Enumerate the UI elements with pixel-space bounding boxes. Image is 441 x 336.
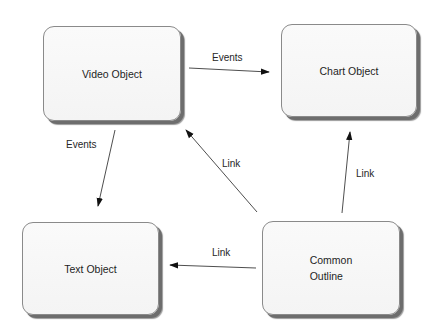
node-chart[interactable]: Chart Object — [281, 24, 417, 117]
arrow-outline-to-chart — [342, 132, 350, 213]
node-label: Common Outline — [310, 252, 353, 284]
diagram-canvas: Video ObjectChart ObjectText ObjectCommo… — [0, 0, 441, 336]
arrow-outline-to-video — [186, 130, 257, 212]
edge-label-video-to-text: Events — [66, 139, 97, 150]
edge-label-outline-to-text: Link — [212, 247, 230, 258]
arrow-outline-to-text — [170, 265, 256, 268]
arrow-video-to-text — [98, 130, 115, 206]
edge-label-video-to-chart: Events — [212, 52, 243, 63]
edge-label-outline-to-video: Link — [222, 158, 240, 169]
node-video[interactable]: Video Object — [43, 26, 181, 121]
edge-label-outline-to-chart: Link — [356, 168, 374, 179]
node-label: Text Object — [64, 261, 117, 277]
node-outline[interactable]: Common Outline — [262, 221, 400, 315]
arrow-video-to-chart — [189, 68, 269, 72]
node-label: Video Object — [82, 66, 142, 82]
node-label: Chart Object — [320, 63, 379, 79]
node-text[interactable]: Text Object — [22, 222, 159, 315]
